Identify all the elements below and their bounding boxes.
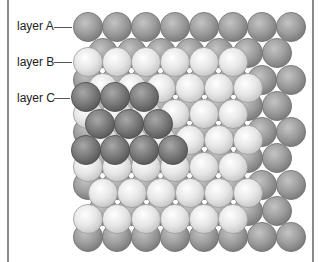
layer-a-sphere [262,196,291,225]
layer-a-sphere [262,38,291,67]
layer-b-label: layer B [17,55,54,69]
layer-c-sphere [129,82,158,111]
layer-c-sphere [114,109,143,138]
layer-b-sphere [189,152,218,181]
layer-c-sphere [85,109,114,138]
layer-b-sphere [160,47,189,76]
layer-a-sphere [218,12,247,41]
layer-a-sphere [247,12,276,41]
layer-b-sphere [117,178,146,207]
layer-b-sphere [102,47,131,76]
layer-b-sphere [146,178,175,207]
layer-a-sphere [160,12,189,41]
layer-c-leader-line [54,98,70,99]
layer-a-sphere [262,143,291,172]
layer-b-sphere [233,125,262,154]
layer-a-sphere [102,12,131,41]
layer-b-sphere [160,204,189,233]
layer-b-sphere [204,125,233,154]
layer-b-sphere [175,73,204,102]
layer-a-sphere [189,12,218,41]
layer-a-sphere [262,91,291,120]
layer-b-sphere [218,47,247,76]
layer-b-sphere [204,178,233,207]
layer-c-sphere [100,135,129,164]
layer-b-sphere [88,178,117,207]
layer-b-sphere [102,204,131,233]
layer-b-leader-line [54,62,72,63]
layer-a-sphere [276,170,305,199]
layer-b-sphere [204,73,233,102]
layer-b-sphere [131,47,160,76]
layer-b-sphere [73,204,102,233]
layer-a-sphere [276,222,305,251]
layer-a-sphere [247,222,276,251]
layer-b-sphere [131,204,160,233]
layer-c-sphere [129,135,158,164]
layer-b-sphere [189,47,218,76]
layer-b-sphere [218,204,247,233]
layer-c-sphere [143,109,172,138]
layer-c-sphere [158,135,187,164]
layer-c-label: layer C [17,91,55,105]
layer-b-sphere [73,47,102,76]
layer-a-sphere [276,117,305,146]
layer-b-sphere [189,99,218,128]
layer-b-sphere [175,178,204,207]
layer-a-sphere [73,12,102,41]
layer-a-leader-line [54,27,72,28]
sphere-packing-diagram [0,0,324,262]
layer-b-sphere [233,178,262,207]
layer-b-sphere [233,73,262,102]
layer-c-sphere [71,135,100,164]
layer-c-sphere [100,82,129,111]
layer-a-sphere [276,12,305,41]
layer-c-sphere [71,82,100,111]
layer-b-sphere [218,152,247,181]
layer-a-sphere [131,12,160,41]
layer-b-sphere [189,204,218,233]
layer-b-sphere [218,99,247,128]
layer-a-label: layer A [17,19,54,33]
layer-a-sphere [276,65,305,94]
